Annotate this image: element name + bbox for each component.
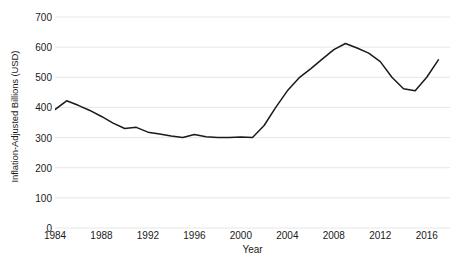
gridlines: [55, 17, 450, 228]
x-axis-title-label: Year: [242, 244, 262, 255]
line-chart: Inflation-Adjusted Billions (USD) 010020…: [0, 0, 453, 269]
plot-svg: [55, 10, 450, 235]
plot-area: [55, 10, 450, 235]
data-line-series-1: [55, 44, 438, 138]
x-axis-title: Year: [55, 244, 450, 255]
